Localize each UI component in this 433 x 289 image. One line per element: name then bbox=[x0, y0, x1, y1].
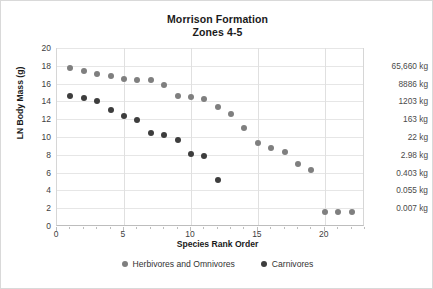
mass-axis-label: 0.055 kg bbox=[396, 185, 428, 195]
gridline-horizontal bbox=[57, 137, 363, 138]
gridline-vertical bbox=[325, 48, 326, 225]
x-axis-minor-tick-mark bbox=[110, 227, 111, 229]
data-point bbox=[108, 73, 114, 79]
mass-axis-label: 1203 kg bbox=[398, 96, 428, 106]
y-axis-tick-label: 0 bbox=[3, 221, 51, 231]
mass-axis-label: 8886 kg bbox=[398, 79, 428, 89]
y-axis-tick-label: 12 bbox=[3, 114, 51, 124]
mass-axis-label: 0.403 kg bbox=[396, 168, 428, 178]
x-axis-tick-label: 20 bbox=[319, 229, 328, 239]
secondary-axis-mass-labels: 65,660 kg8886 kg1203 kg163 kg22 kg2.98 k… bbox=[367, 48, 433, 226]
gridline-vertical bbox=[258, 48, 259, 225]
x-axis-minor-tick-mark bbox=[310, 227, 311, 229]
gridline-vertical bbox=[124, 48, 125, 225]
x-axis-minor-tick-mark bbox=[177, 227, 178, 229]
mass-axis-label: 65,660 kg bbox=[392, 61, 428, 71]
gridline-horizontal bbox=[57, 190, 363, 191]
chart-subtitle: Zones 4-5 bbox=[1, 26, 433, 39]
x-axis-minor-tick-mark bbox=[243, 227, 244, 229]
x-axis-minor-tick-mark bbox=[297, 227, 298, 229]
x-axis-minor-tick-mark bbox=[150, 227, 151, 229]
data-point bbox=[175, 93, 181, 99]
legend-item[interactable]: Carnivores bbox=[261, 259, 314, 269]
y-axis-tick-label: 14 bbox=[3, 96, 51, 106]
legend-marker-icon bbox=[261, 261, 267, 267]
data-point bbox=[255, 140, 261, 146]
legend-item-label: Herbivores and Omnivores bbox=[133, 259, 235, 269]
data-point bbox=[188, 151, 194, 157]
y-axis-tick-label: 16 bbox=[3, 79, 51, 89]
x-axis-minor-tick-mark bbox=[364, 227, 365, 229]
data-point bbox=[268, 145, 274, 151]
mass-axis-label: 163 kg bbox=[403, 114, 428, 124]
data-point bbox=[228, 111, 234, 117]
gridline-horizontal bbox=[57, 101, 363, 102]
data-point bbox=[322, 209, 328, 215]
x-axis-tick-label: 15 bbox=[252, 229, 261, 239]
y-axis-tick-label: 18 bbox=[3, 61, 51, 71]
legend-item-label: Carnivores bbox=[272, 259, 314, 269]
data-point bbox=[215, 104, 221, 110]
data-point bbox=[148, 130, 154, 136]
gridline-horizontal bbox=[57, 208, 363, 209]
data-point bbox=[81, 68, 87, 74]
gridline-horizontal bbox=[57, 66, 363, 67]
chart-legend: Herbivores and OmnivoresCarnivores bbox=[1, 259, 433, 269]
y-axis-title: LN Body Mass (g) bbox=[15, 43, 25, 163]
legend-item[interactable]: Herbivores and Omnivores bbox=[122, 259, 235, 269]
data-point bbox=[148, 77, 154, 83]
data-point bbox=[134, 117, 140, 123]
x-axis-tick-label: 0 bbox=[54, 229, 59, 239]
x-axis-title: Species Rank Order bbox=[1, 239, 433, 249]
gridline-horizontal bbox=[57, 84, 363, 85]
data-point bbox=[67, 65, 73, 71]
chart-title-block: Morrison Formation Zones 4-5 bbox=[1, 13, 433, 39]
plot-area bbox=[56, 48, 364, 226]
chart-container: Morrison Formation Zones 4-5 02468101214… bbox=[0, 0, 433, 289]
x-axis-minor-tick-mark bbox=[337, 227, 338, 229]
x-axis-minor-tick-mark bbox=[230, 227, 231, 229]
data-point bbox=[81, 95, 87, 101]
gridline-horizontal bbox=[57, 173, 363, 174]
x-axis-minor-tick-mark bbox=[69, 227, 70, 229]
chart-title: Morrison Formation bbox=[1, 13, 433, 26]
data-point bbox=[161, 82, 167, 88]
x-axis-minor-tick-mark bbox=[284, 227, 285, 229]
x-axis-minor-tick-mark bbox=[163, 227, 164, 229]
x-axis-minor-tick-mark bbox=[203, 227, 204, 229]
data-point bbox=[121, 113, 127, 119]
data-point bbox=[349, 209, 355, 215]
gridline-vertical bbox=[191, 48, 192, 225]
data-point bbox=[188, 94, 194, 100]
data-point bbox=[108, 107, 114, 113]
legend-marker-icon bbox=[122, 261, 128, 267]
y-axis-tick-label: 6 bbox=[3, 168, 51, 178]
data-point bbox=[67, 93, 73, 99]
x-axis-minor-tick-mark bbox=[96, 227, 97, 229]
data-point bbox=[201, 153, 207, 159]
x-axis-minor-tick-mark bbox=[136, 227, 137, 229]
mass-axis-label: 22 kg bbox=[408, 132, 428, 142]
x-axis-minor-tick-mark bbox=[83, 227, 84, 229]
mass-axis-label: 2.98 kg bbox=[401, 150, 428, 160]
x-axis-tick-label: 5 bbox=[121, 229, 126, 239]
data-point bbox=[94, 71, 100, 77]
data-point bbox=[175, 137, 181, 143]
y-axis-tick-label: 2 bbox=[3, 203, 51, 213]
data-point bbox=[215, 177, 221, 183]
data-point bbox=[134, 77, 140, 83]
data-point bbox=[94, 98, 100, 104]
data-point bbox=[282, 149, 288, 155]
x-axis-tick-label: 10 bbox=[185, 229, 194, 239]
mass-axis-label: 0.007 kg bbox=[396, 203, 428, 213]
data-point bbox=[295, 161, 301, 167]
gridline-horizontal bbox=[57, 155, 363, 156]
data-point bbox=[335, 209, 341, 215]
y-axis-tick-label: 8 bbox=[3, 150, 51, 160]
data-point bbox=[241, 125, 247, 131]
gridline-horizontal bbox=[57, 119, 363, 120]
x-axis-minor-tick-mark bbox=[351, 227, 352, 229]
y-axis-tick-label: 20 bbox=[3, 43, 51, 53]
y-axis-tick-label: 10 bbox=[3, 132, 51, 142]
x-axis-minor-tick-mark bbox=[217, 227, 218, 229]
